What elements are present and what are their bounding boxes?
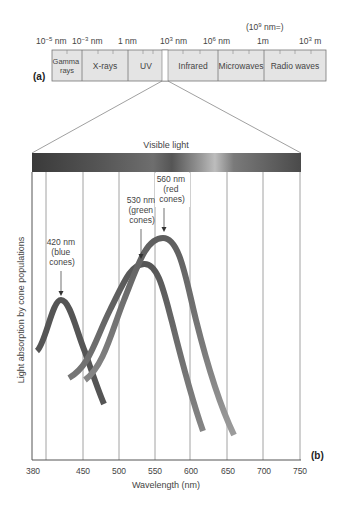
scale-label: 10−3 nm [72, 36, 102, 46]
band-uv: UV [140, 61, 152, 71]
spectrum-scale: (109 nm=) 10−5 nm 10−3 nm 1 nm 103 nm 10… [33, 22, 326, 82]
svg-text:500: 500 [112, 466, 126, 476]
scale-label: 1 nm [118, 36, 137, 46]
svg-text:380: 380 [26, 466, 40, 476]
cone-absorption-figure: (109 nm=) 10−5 nm 10−3 nm 1 nm 103 nm 10… [0, 0, 342, 511]
annotation-1m-equals: (109 nm=) [246, 22, 284, 32]
panel-label-a: (a) [33, 71, 45, 82]
green-cone-curve [69, 264, 203, 431]
scale-label: 103 m [299, 36, 321, 46]
red-cone-curve [85, 238, 234, 435]
scale-label: 1m [257, 36, 269, 46]
svg-text:650: 650 [221, 466, 235, 476]
arrow-head-icon [59, 291, 64, 296]
scale-label: 10−5 nm [36, 36, 66, 46]
svg-text:750: 750 [293, 466, 307, 476]
visible-light-title: Visible light [143, 140, 189, 150]
visible-slit [162, 50, 168, 81]
panel-label-b: (b) [311, 450, 324, 461]
svg-text:700: 700 [257, 466, 271, 476]
y-axis-label: Light absorption by cone populations [16, 236, 26, 383]
scale-label: 103 nm [160, 36, 187, 46]
svg-text:550: 550 [148, 466, 162, 476]
svg-text:530 nm (green cone: 530 nm (green cones) [127, 195, 158, 225]
visible-spectrum-bar [32, 153, 301, 172]
blue-cone-label: 420 nm (blue cones) [47, 237, 78, 296]
scale-label: 106 nm [203, 36, 230, 46]
x-tick-labels: 380 450 500 550 600 650 700 750 [26, 466, 307, 476]
svg-text:420 nm (blue cones: 420 nm (blue cones) [47, 237, 78, 267]
band-radio-waves: Radio waves [271, 61, 320, 71]
band-infrared: Infrared [178, 61, 208, 71]
x-axis-label: Wavelength (nm) [132, 480, 200, 490]
svg-text:600: 600 [184, 466, 198, 476]
red-cone-label: 560 nm (red cones) [155, 173, 190, 232]
green-cone-label: 530 nm (green cones) [127, 195, 158, 259]
arrow-head-icon [162, 227, 167, 232]
band-x-rays: X-rays [93, 61, 118, 71]
svg-text:450: 450 [76, 466, 90, 476]
band-microwaves: Microwaves [219, 61, 264, 71]
